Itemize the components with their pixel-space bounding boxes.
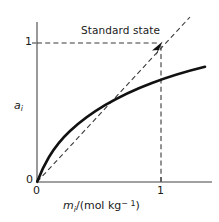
x-axis-title: mi/(mol kg− 1) <box>63 200 140 213</box>
y-axis-symbol: a <box>14 99 21 112</box>
x-axis-units: /(mol kg <box>76 199 121 212</box>
y-axis-subscript: i <box>21 104 23 113</box>
x-axis-tick-label-0: 0 <box>33 185 40 196</box>
y-axis-title: ai <box>14 100 23 113</box>
x-axis-close-paren: ) <box>135 199 139 212</box>
activity-curve <box>37 67 205 182</box>
x-axis-exponent: − 1 <box>121 199 135 208</box>
y-axis-tick-label-0: 0 <box>26 174 33 185</box>
x-axis-symbol: m <box>63 199 74 212</box>
standard-state-annotation: Standard state <box>81 25 160 36</box>
y-axis-tick-label-1: 1 <box>25 36 32 47</box>
x-axis-tick-label-1: 1 <box>157 185 164 196</box>
activity-vs-molality-figure: Standard state 1 0 0 1 ai mi/(mol kg− 1) <box>0 0 219 222</box>
